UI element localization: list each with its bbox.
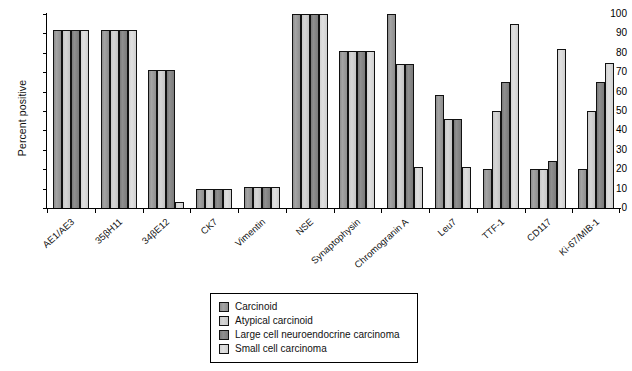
legend-label: Carcinoid	[235, 302, 277, 312]
bar	[357, 51, 366, 208]
bar	[510, 24, 519, 208]
bar	[339, 51, 348, 208]
x-label-cell: AE1/AE3	[47, 214, 95, 284]
bar	[80, 30, 89, 208]
x-label-cell: Leu7	[429, 214, 477, 284]
bar	[348, 51, 357, 208]
bar	[101, 30, 110, 208]
bar	[53, 30, 62, 208]
bar	[110, 30, 119, 208]
x-tick-label-text: Leu7	[435, 216, 458, 238]
bar	[157, 70, 166, 208]
bar	[128, 30, 137, 208]
x-axis-labels: AE1/AE335βH1134βE12CK7VimentinNSESynapto…	[47, 214, 620, 284]
bar	[119, 30, 128, 208]
bar	[319, 14, 328, 208]
bar	[557, 49, 566, 208]
bar	[483, 169, 492, 208]
x-label-cell: Vimentin	[238, 214, 286, 284]
bar	[310, 14, 319, 208]
bar-group	[525, 14, 573, 208]
bar	[301, 14, 310, 208]
bar	[205, 189, 214, 208]
bar-group	[477, 14, 525, 208]
legend-label: Large cell neuroendocrine carcinoma	[235, 330, 400, 340]
bar-group	[286, 14, 334, 208]
bar-group	[238, 14, 286, 208]
bar	[530, 169, 539, 208]
bar	[214, 189, 223, 208]
legend-rows: CarcinoidAtypical carcinoidLarge cell ne…	[219, 300, 409, 356]
x-label-cell: CK7	[190, 214, 238, 284]
bar-groups	[47, 14, 620, 208]
x-tick-label-text: CK7	[198, 216, 219, 237]
bar-group	[47, 14, 95, 208]
bar	[253, 187, 262, 208]
bar	[492, 111, 501, 208]
bar	[596, 82, 605, 208]
legend-swatch	[219, 316, 229, 326]
x-tick-label-text: CD117	[525, 216, 554, 243]
bar-group	[95, 14, 143, 208]
legend-label: Atypical carcinoid	[235, 316, 313, 326]
legend: CarcinoidAtypical carcinoidLarge cell ne…	[210, 293, 418, 363]
x-tick-label-text: Vimentin	[233, 216, 268, 249]
legend-item: Carcinoid	[219, 300, 409, 314]
bar	[166, 70, 175, 208]
legend-swatch	[219, 330, 229, 340]
bar	[548, 161, 557, 208]
x-tick-label-text: 34βE12	[140, 216, 172, 246]
x-tick-label-text: 35βH11	[92, 216, 124, 246]
legend-swatch	[219, 344, 229, 354]
bar-group	[190, 14, 238, 208]
bar	[62, 30, 71, 208]
x-tick-label-text: NSE	[293, 216, 315, 237]
bar-group	[143, 14, 191, 208]
x-label-cell: Chromogranin A	[381, 214, 429, 284]
x-label-cell: 34βE12	[143, 214, 191, 284]
bar-group	[334, 14, 382, 208]
bar	[587, 111, 596, 208]
bar	[196, 189, 205, 208]
bar	[262, 187, 271, 208]
bar	[148, 70, 157, 208]
legend-item: Large cell neuroendocrine carcinoma	[219, 328, 409, 342]
bar-group	[572, 14, 620, 208]
x-tick-label-text: TTF-1	[479, 216, 506, 241]
bar	[71, 30, 80, 208]
x-tick-label-text: AE1/AE3	[40, 216, 76, 250]
bar	[405, 64, 414, 208]
bar	[605, 63, 614, 209]
bar	[244, 187, 253, 208]
x-label-cell: Ki-67/MIB-1	[572, 214, 620, 284]
x-label-cell: 35βH11	[95, 214, 143, 284]
legend-label: Small cell carcinoma	[235, 344, 327, 354]
bar	[578, 169, 587, 208]
bar	[539, 169, 548, 208]
bar	[453, 119, 462, 208]
bar	[292, 14, 301, 208]
bar	[501, 82, 510, 208]
legend-item: Atypical carcinoid	[219, 314, 409, 328]
bar	[444, 119, 453, 208]
legend-item: Small cell carcinoma	[219, 342, 409, 356]
y-axis-title: Percent positive	[16, 58, 28, 178]
x-label-cell: TTF-1	[477, 214, 525, 284]
bar	[366, 51, 375, 208]
legend-swatch	[219, 302, 229, 312]
